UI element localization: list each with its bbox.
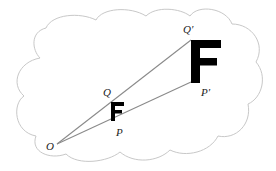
- label-Q-prime: Q′: [183, 23, 194, 35]
- label-Q: Q: [103, 86, 111, 98]
- ray-O-to-P-prime: [57, 82, 191, 144]
- image-f-figure: [191, 40, 221, 83]
- original-f-figure: [111, 102, 124, 121]
- label-O: O: [46, 140, 54, 152]
- cloud-outline: [17, 9, 263, 161]
- dilation-diagram: O Q P Q′ P′: [0, 0, 276, 171]
- label-P-prime: P′: [200, 86, 211, 98]
- label-P: P: [115, 126, 123, 138]
- ray-O-to-Q-prime: [57, 40, 191, 144]
